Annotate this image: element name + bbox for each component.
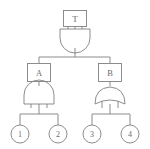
- fault-tree-svg: T A B 1 2 3 4: [0, 0, 150, 149]
- basic-event-label-1: 1: [18, 130, 22, 139]
- basic-event-label-4: 4: [128, 130, 132, 139]
- fault-tree-diagram: T A B 1 2 3 4: [0, 0, 150, 149]
- intermediate-event-label-b: B: [107, 68, 113, 78]
- basic-event-label-3: 3: [90, 130, 94, 139]
- intermediate-event-label-a: A: [36, 68, 43, 78]
- basic-event-label-2: 2: [56, 130, 60, 139]
- top-event-label: T: [72, 14, 78, 24]
- or-gate-icon-b[interactable]: [95, 87, 125, 104]
